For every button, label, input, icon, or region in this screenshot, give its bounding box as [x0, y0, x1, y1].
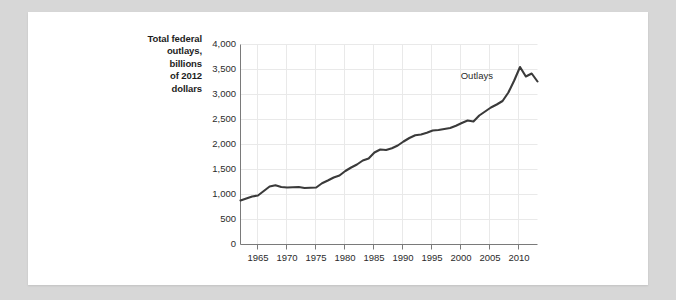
y-axis-title-line-1: Total federal [110, 33, 202, 45]
y-tick-label-0: 0 [196, 239, 236, 249]
y-axis-title-line-4: of 2012 [110, 70, 202, 82]
outlays-annotation: Outlays [461, 70, 493, 81]
y-tick-label-1000: 1,000 [196, 189, 236, 199]
y-tick-label-4000: 4,000 [196, 39, 236, 49]
y-tick-label-500: 500 [196, 214, 236, 224]
outlays-line [241, 67, 538, 201]
y-tick-label-3500: 3,500 [196, 64, 236, 74]
y-tick-label-1500: 1,500 [196, 164, 236, 174]
x-tick-marks [258, 245, 519, 250]
y-tick-label-2000: 2,000 [196, 139, 236, 149]
x-tick-label-2010: 2010 [499, 253, 539, 263]
y-tick-label-3000: 3,000 [196, 89, 236, 99]
y-axis-title: Total federal outlays, billions of 2012 … [110, 33, 202, 95]
y-tick-label-2500: 2,500 [196, 114, 236, 124]
y-axis-title-line-3: billions [110, 58, 202, 70]
y-axis-title-line-5: dollars [110, 83, 202, 95]
screenshot-root: Total federal outlays, billions of 2012 … [0, 0, 676, 300]
y-axis-title-line-2: outlays, [110, 45, 202, 57]
